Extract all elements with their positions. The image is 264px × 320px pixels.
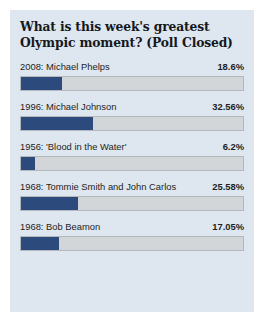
poll-option-percent: 6.2% — [217, 141, 244, 152]
poll-bar-track — [20, 156, 244, 171]
poll-result-row-3: 1968: Tommie Smith and John Carlos 25.58… — [20, 181, 244, 211]
poll-result-row-0: 2008: Michael Phelps 18.6% — [20, 61, 244, 91]
poll-card: What is this week's greatest Olympic mom… — [10, 10, 254, 312]
poll-option-label: 2008: Michael Phelps — [20, 61, 110, 72]
poll-option-percent: 17.05% — [206, 221, 244, 232]
page-title: What is this week's greatest Olympic mom… — [20, 19, 244, 50]
poll-bar-fill — [21, 117, 93, 130]
poll-option-label: 1956: 'Blood in the Water' — [20, 141, 126, 152]
poll-bar-fill — [21, 237, 59, 250]
poll-bar-track — [20, 116, 244, 131]
poll-result-header: 1968: Tommie Smith and John Carlos 25.58… — [20, 181, 244, 192]
poll-bar-fill — [21, 77, 62, 90]
poll-result-header: 1996: Michael Johnson 32.56% — [20, 101, 244, 112]
poll-option-percent: 25.58% — [206, 181, 244, 192]
poll-result-header: 2008: Michael Phelps 18.6% — [20, 61, 244, 72]
poll-result-header: 1956: 'Blood in the Water' 6.2% — [20, 141, 244, 152]
poll-results-list: 2008: Michael Phelps 18.6% 1996: Michael… — [20, 61, 244, 251]
poll-result-row-4: 1968: Bob Beamon 17.05% — [20, 221, 244, 251]
poll-option-label: 1996: Michael Johnson — [20, 101, 116, 112]
poll-result-row-1: 1996: Michael Johnson 32.56% — [20, 101, 244, 131]
poll-option-label: 1968: Tommie Smith and John Carlos — [20, 181, 176, 192]
poll-bar-fill — [21, 157, 35, 170]
poll-option-percent: 18.6% — [211, 61, 244, 72]
poll-bar-track — [20, 196, 244, 211]
poll-bar-track — [20, 236, 244, 251]
poll-bar-fill — [21, 197, 78, 210]
poll-result-row-2: 1956: 'Blood in the Water' 6.2% — [20, 141, 244, 171]
poll-bar-track — [20, 76, 244, 91]
poll-option-label: 1968: Bob Beamon — [20, 221, 100, 232]
poll-option-percent: 32.56% — [206, 101, 244, 112]
poll-result-header: 1968: Bob Beamon 17.05% — [20, 221, 244, 232]
